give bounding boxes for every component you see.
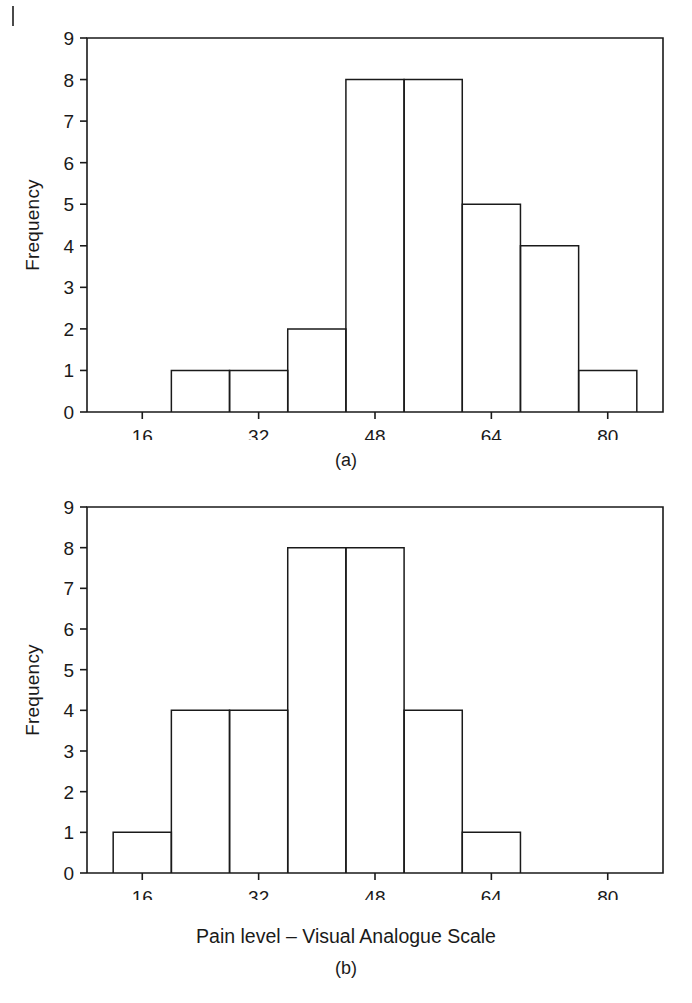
histogram-bar bbox=[288, 329, 346, 412]
x-axis-ticks-b bbox=[142, 873, 607, 880]
figure-page: 0123456789 1632486480 Frequency (a) 0123… bbox=[0, 0, 692, 1003]
panel-label-a: (a) bbox=[0, 450, 692, 471]
x-tick-label: 32 bbox=[248, 887, 269, 900]
histogram-panel-a: 0123456789 1632486480 Frequency (a) bbox=[0, 0, 692, 480]
y-tick-label: 6 bbox=[63, 619, 74, 640]
y-tick-label: 5 bbox=[63, 194, 74, 215]
panel-label-b: (b) bbox=[0, 958, 692, 979]
y-tick-label: 2 bbox=[63, 782, 74, 803]
histogram-bar bbox=[404, 80, 462, 412]
y-tick-label: 8 bbox=[63, 538, 74, 559]
histogram-bars-a bbox=[171, 80, 636, 412]
x-axis-tick-labels-b: 1632486480 bbox=[132, 887, 619, 900]
histogram-bar bbox=[462, 832, 520, 873]
y-axis-ticks-b bbox=[80, 507, 87, 873]
y-tick-label: 0 bbox=[63, 863, 74, 884]
y-tick-label: 7 bbox=[63, 111, 74, 132]
histogram-bar bbox=[462, 204, 520, 412]
x-axis-title-b: Pain level – Visual Analogue Scale bbox=[0, 925, 692, 948]
histogram-bar bbox=[230, 710, 288, 873]
x-tick-label: 16 bbox=[132, 887, 153, 900]
y-axis-title-a: Frequency bbox=[22, 179, 44, 271]
x-tick-label: 80 bbox=[597, 887, 618, 900]
x-tick-label: 80 bbox=[597, 426, 618, 440]
plot-frame-a bbox=[87, 38, 663, 412]
y-axis-tick-labels-b: 0123456789 bbox=[63, 497, 74, 884]
histogram-b-plot: 0123456789 1632486480 bbox=[0, 470, 692, 900]
y-tick-label: 4 bbox=[63, 700, 74, 721]
x-tick-label: 64 bbox=[481, 426, 503, 440]
x-tick-label: 48 bbox=[364, 887, 385, 900]
x-axis-tick-labels-a: 1632486480 bbox=[132, 426, 619, 440]
y-axis-tick-labels-a: 0123456789 bbox=[63, 28, 74, 423]
y-tick-label: 3 bbox=[63, 741, 74, 762]
y-tick-label: 0 bbox=[63, 402, 74, 423]
y-tick-label: 6 bbox=[63, 153, 74, 174]
histogram-bar bbox=[230, 370, 288, 412]
y-tick-label: 5 bbox=[63, 660, 74, 681]
x-tick-label: 64 bbox=[481, 887, 503, 900]
y-tick-label: 9 bbox=[63, 497, 74, 518]
plot-frame-b bbox=[87, 507, 663, 873]
y-axis-title-b: Frequency bbox=[22, 644, 44, 736]
histogram-bar bbox=[404, 710, 462, 873]
y-tick-label: 9 bbox=[63, 28, 74, 49]
x-axis-ticks-a bbox=[142, 412, 607, 419]
histogram-bar bbox=[346, 80, 404, 412]
histogram-bar bbox=[579, 370, 637, 412]
y-tick-label: 7 bbox=[63, 578, 74, 599]
histogram-bar bbox=[346, 548, 404, 873]
y-tick-label: 3 bbox=[63, 277, 74, 298]
x-tick-label: 32 bbox=[248, 426, 269, 440]
y-tick-label: 2 bbox=[63, 319, 74, 340]
x-tick-label: 16 bbox=[132, 426, 153, 440]
histogram-panel-b: 0123456789 1632486480 Frequency Pain lev… bbox=[0, 470, 692, 1003]
histogram-bar bbox=[113, 832, 171, 873]
histogram-bars-b bbox=[113, 548, 520, 873]
y-tick-label: 1 bbox=[63, 822, 74, 843]
y-axis-ticks-a bbox=[80, 38, 87, 412]
histogram-bar bbox=[520, 246, 578, 412]
histogram-bar bbox=[171, 370, 229, 412]
histogram-bar bbox=[288, 548, 346, 873]
histogram-bar bbox=[171, 710, 229, 873]
histogram-a-plot: 0123456789 1632486480 bbox=[0, 0, 692, 440]
x-tick-label: 48 bbox=[364, 426, 385, 440]
y-tick-label: 4 bbox=[63, 236, 74, 257]
y-tick-label: 1 bbox=[63, 360, 74, 381]
y-tick-label: 8 bbox=[63, 70, 74, 91]
